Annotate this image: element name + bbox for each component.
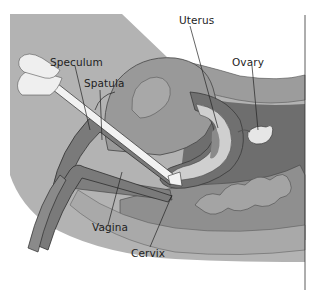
label-spatula: Spatula bbox=[84, 78, 125, 89]
label-vagina: Vagina bbox=[92, 222, 128, 233]
label-cervix: Cervix bbox=[131, 248, 165, 259]
label-uterus: Uterus bbox=[179, 15, 214, 26]
label-ovary: Ovary bbox=[232, 57, 264, 68]
label-speculum: Speculum bbox=[50, 57, 103, 68]
